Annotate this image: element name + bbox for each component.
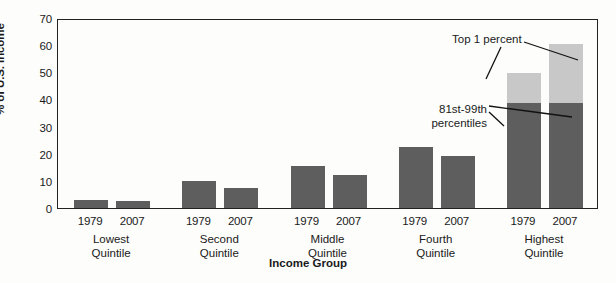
bar-segment-81st-99th	[441, 156, 475, 208]
bar-lowest-quintile-2007	[116, 201, 150, 208]
x-tick-label-highest-quintile-2007: 2007	[543, 215, 587, 227]
x-group-label-highest-quintile: HighestQuintile	[489, 232, 599, 260]
group-label-line1: Lowest	[56, 232, 166, 246]
y-tick-label-60: 60	[26, 40, 52, 52]
x-tick-label-second-quintile-2007: 2007	[218, 215, 262, 227]
bar-segment-81st-99th	[507, 103, 541, 208]
y-tick-label-20: 20	[26, 149, 52, 161]
x-tick-label-fourth-quintile-1979: 1979	[393, 215, 437, 227]
x-tick-label-highest-quintile-1979: 1979	[501, 215, 545, 227]
bar-segment-81st-99th	[116, 201, 150, 208]
annotation-81st-99th-line2: percentiles	[395, 117, 487, 131]
bar-fourth-quintile-1979	[399, 147, 433, 208]
annotation-top-1-percent: Top 1 percent	[452, 33, 522, 47]
group-label-line1: Fourth	[381, 232, 491, 246]
x-group-label-middle-quintile: MiddleQuintile	[273, 232, 383, 260]
y-tick-label-0: 0	[26, 203, 52, 215]
bar-segment-top-1-percent	[507, 73, 541, 102]
bar-segment-81st-99th	[74, 200, 108, 208]
plot-area	[57, 19, 598, 209]
bar-second-quintile-2007	[224, 188, 258, 208]
y-tick-label-40: 40	[26, 94, 52, 106]
annotation-81st-99th-percentiles: 81st-99th percentiles	[395, 103, 487, 130]
y-tick-label-30: 30	[26, 122, 52, 134]
x-tick-label-middle-quintile-1979: 1979	[285, 215, 329, 227]
y-tick-label-70: 70	[26, 13, 52, 25]
x-tick-label-middle-quintile-2007: 2007	[327, 215, 371, 227]
y-tick-label-10: 10	[26, 176, 52, 188]
x-axis-title: Income Group	[0, 257, 616, 269]
bar-segment-81st-99th	[224, 188, 258, 208]
group-label-line1: Second	[164, 232, 274, 246]
group-label-line1: Highest	[489, 232, 599, 246]
bar-segment-81st-99th	[399, 147, 433, 208]
bar-segment-81st-99th	[333, 175, 367, 208]
bar-segment-81st-99th	[549, 103, 583, 208]
x-group-label-lowest-quintile: LowestQuintile	[56, 232, 166, 260]
chart-container: % of U.S. Income 010203040506070 1979200…	[0, 0, 616, 283]
x-group-label-fourth-quintile: FourthQuintile	[381, 232, 491, 260]
bar-highest-quintile-2007	[549, 44, 583, 208]
bar-highest-quintile-1979	[507, 73, 541, 208]
bar-segment-81st-99th	[182, 181, 216, 208]
bar-segment-top-1-percent	[549, 44, 583, 103]
bar-fourth-quintile-2007	[441, 156, 475, 208]
bar-middle-quintile-2007	[333, 175, 367, 208]
x-group-label-second-quintile: SecondQuintile	[164, 232, 274, 260]
x-tick-label-lowest-quintile-1979: 1979	[68, 215, 112, 227]
y-axis-title: % of U.S. Income	[0, 23, 6, 115]
group-label-line1: Middle	[273, 232, 383, 246]
x-tick-label-lowest-quintile-2007: 2007	[110, 215, 154, 227]
bar-middle-quintile-1979	[291, 166, 325, 208]
annotation-81st-99th-line1: 81st-99th	[395, 103, 487, 117]
x-tick-label-fourth-quintile-2007: 2007	[435, 215, 479, 227]
bar-second-quintile-1979	[182, 181, 216, 208]
bar-segment-81st-99th	[291, 166, 325, 208]
x-tick-label-second-quintile-1979: 1979	[176, 215, 220, 227]
bar-lowest-quintile-1979	[74, 200, 108, 208]
y-tick-label-50: 50	[26, 67, 52, 79]
